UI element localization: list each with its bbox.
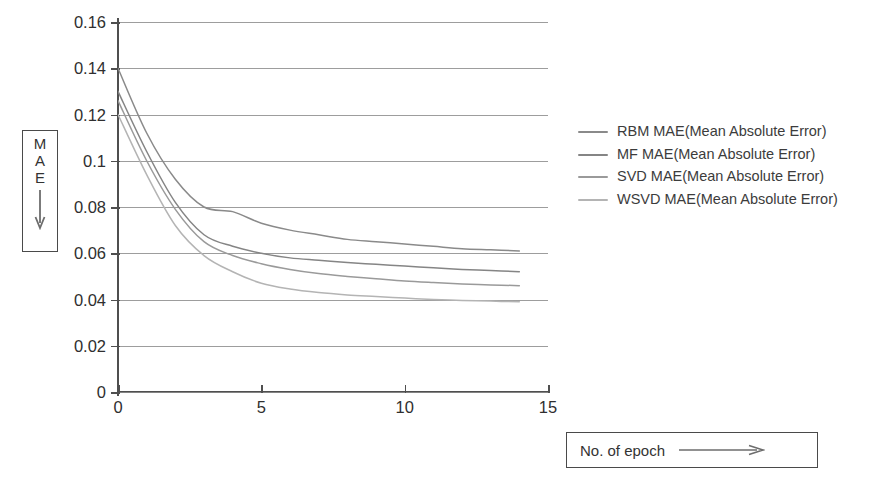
legend-swatch-icon — [578, 176, 608, 178]
x-axis-tick-label: 0 — [113, 398, 122, 417]
legend-item[interactable]: MF MAE(Mean Absolute Error) — [572, 145, 868, 164]
right-arrow-icon — [679, 444, 765, 456]
y-axis-tick-label: 0 — [50, 383, 106, 402]
legend-label: SVD MAE(Mean Absolute Error) — [617, 167, 824, 186]
x-axis-label-box: No. of epoch — [566, 432, 818, 468]
legend-item[interactable]: SVD MAE(Mean Absolute Error) — [572, 167, 868, 186]
gridline — [118, 392, 548, 393]
x-axis-label-text: No. of epoch — [580, 442, 665, 459]
legend-label: MF MAE(Mean Absolute Error) — [617, 145, 815, 164]
y-axis-tick-label: 0.16 — [50, 13, 106, 32]
series-line — [118, 91, 519, 271]
y-axis-tick-label: 0.1 — [50, 152, 106, 171]
series-line — [118, 101, 519, 286]
legend: RBM MAE(Mean Absolute Error)MF MAE(Mean … — [572, 122, 868, 212]
legend-item[interactable]: WSVD MAE(Mean Absolute Error) — [572, 190, 868, 209]
legend-swatch-icon — [578, 154, 608, 156]
y-axis-tick-label: 0.06 — [50, 244, 106, 263]
x-axis-tick-label: 15 — [539, 398, 557, 417]
legend-label: WSVD MAE(Mean Absolute Error) — [617, 190, 838, 209]
y-axis-letter-e: E — [35, 170, 45, 187]
y-axis-tick-label: 0.08 — [50, 198, 106, 217]
legend-swatch-icon — [578, 131, 608, 133]
x-axis-tick-labels: 051015 — [118, 398, 566, 424]
down-arrow-icon — [34, 190, 46, 230]
legend-label: RBM MAE(Mean Absolute Error) — [617, 122, 827, 141]
data-curves — [118, 22, 548, 392]
y-axis-tick-label: 0.14 — [50, 59, 106, 78]
x-axis-tick — [548, 385, 550, 393]
plot-area — [118, 22, 548, 392]
y-axis-letter-a: A — [35, 153, 45, 170]
legend-item[interactable]: RBM MAE(Mean Absolute Error) — [572, 122, 868, 141]
chart-page: M A E 00.020.040.060.080.10.120.140.16 0… — [0, 0, 871, 482]
y-axis-tick-label: 0.04 — [50, 291, 106, 310]
legend-swatch-icon — [578, 199, 608, 201]
x-axis-tick-label: 5 — [257, 398, 266, 417]
series-line — [118, 68, 519, 251]
y-axis-tick-labels: 00.020.040.060.080.10.120.140.16 — [48, 22, 106, 394]
y-axis-tick-label: 0.02 — [50, 337, 106, 356]
y-axis-letter-m: M — [34, 136, 47, 153]
y-axis-tick-label: 0.12 — [50, 106, 106, 125]
x-axis-tick-label: 10 — [395, 398, 413, 417]
